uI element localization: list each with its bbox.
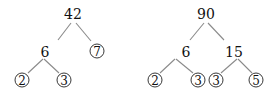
- tree-edges: [28, 23, 252, 73]
- node-6: 6: [41, 44, 50, 60]
- node-3: 3: [212, 74, 220, 88]
- node-7: 7: [93, 45, 101, 59]
- node-5: 5: [252, 74, 260, 88]
- node-15: 15: [225, 44, 243, 60]
- node-3: 3: [60, 74, 68, 88]
- node-labels: 42 6 7 2 3 90 6 15 2 3 3 5: [18, 6, 260, 88]
- node-2: 2: [18, 74, 26, 88]
- node-42: 42: [64, 6, 82, 22]
- node-6: 6: [182, 44, 191, 60]
- node-2: 2: [151, 74, 159, 88]
- node-90: 90: [197, 6, 215, 22]
- factor-trees-diagram: 42 6 7 2 3 90 6 15 2 3 3 5: [0, 0, 276, 100]
- node-3: 3: [194, 74, 202, 88]
